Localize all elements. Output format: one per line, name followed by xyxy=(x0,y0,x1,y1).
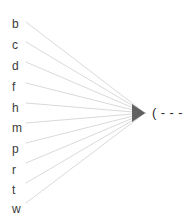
fan-convergence-diagram: bcdfhmprtw ( - - - ) xyxy=(0,0,187,220)
source-label-h: h xyxy=(12,102,19,114)
source-label-b: b xyxy=(12,18,19,30)
source-label-d: d xyxy=(12,60,19,72)
source-label-f: f xyxy=(12,81,15,93)
fan-edge xyxy=(26,113,145,163)
source-label-m: m xyxy=(12,122,22,134)
target-label: ( - - - ) xyxy=(152,106,187,119)
fan-edge xyxy=(26,103,145,113)
fan-edge xyxy=(26,42,145,113)
fan-edge xyxy=(26,113,145,143)
source-label-c: c xyxy=(12,39,18,51)
fan-edge xyxy=(26,22,145,113)
source-label-t: t xyxy=(12,184,15,196)
fan-edge xyxy=(26,113,145,203)
source-label-r: r xyxy=(12,164,16,176)
fan-edge xyxy=(26,113,145,183)
fan-edge xyxy=(26,113,145,123)
edge-group xyxy=(26,22,145,203)
convergence-arrowhead xyxy=(132,104,145,122)
source-label-p: p xyxy=(12,143,19,155)
source-label-w: w xyxy=(12,203,21,215)
convergence-point xyxy=(132,104,145,122)
